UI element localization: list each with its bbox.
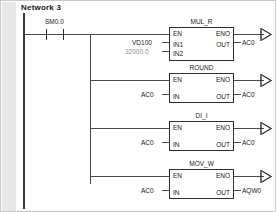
block-title-mul-r: MUL_R — [169, 18, 234, 25]
operand-in-block-3[interactable]: AC0 — [141, 139, 154, 146]
network-title: Network 3 — [21, 3, 61, 12]
pin-eno-label-3: ENO — [216, 124, 230, 131]
branch-vertical-wire — [90, 34, 91, 184]
pin-eno-label-4: ENO — [216, 172, 230, 179]
stub-in1-block-1 — [162, 42, 169, 43]
function-block-mov-w[interactable]: EN ENO IN OUT — [169, 169, 234, 199]
pin-eno-label-1: ENO — [216, 30, 230, 37]
pin-in1-label: IN1 — [173, 41, 183, 48]
operand-in2-block-1[interactable]: 32000.0 — [125, 48, 149, 55]
branch-wire-block-2 — [90, 80, 169, 81]
operand-out-block-3[interactable]: AC0 — [242, 139, 255, 146]
rung-segment-rail-to-contact — [25, 34, 46, 35]
rung-segment-contact-to-branch — [64, 34, 91, 35]
stub-in-block-3 — [162, 142, 169, 143]
branch-wire-block-1 — [90, 34, 169, 35]
left-power-rail — [23, 13, 25, 209]
pin-out-label-4: OUT — [216, 189, 230, 196]
pin-en-label-2: EN — [173, 76, 182, 83]
contact-gap-wire — [47, 34, 63, 35]
ladder-editor-canvas[interactable]: Network 3 SM0.0 EN ENO IN1 IN2 OUT MUL_R… — [0, 0, 276, 212]
function-block-mul-r[interactable]: EN ENO IN1 IN2 OUT — [169, 27, 234, 61]
editor-gutter — [2, 2, 16, 212]
branch-wire-block-4 — [90, 176, 169, 177]
pin-in2-label: IN2 — [173, 50, 183, 57]
pin-en-label-3: EN — [173, 124, 182, 131]
pin-in-label-2: IN — [173, 93, 180, 100]
function-block-di-i[interactable]: EN ENO IN OUT — [169, 121, 234, 151]
operand-out-block-2[interactable]: AC0 — [242, 91, 255, 98]
pin-en-label-1: EN — [173, 30, 182, 37]
stub-out-block-3 — [234, 142, 241, 143]
block-title-mov-w: MOV_W — [169, 160, 234, 167]
pin-eno-label-2: ENO — [216, 76, 230, 83]
stub-out-block-4 — [234, 190, 241, 191]
pin-en-label-4: EN — [173, 172, 182, 179]
operand-in-block-4[interactable]: AC0 — [141, 187, 154, 194]
branch-wire-block-3 — [90, 128, 169, 129]
power-flow-arrow-icon-1 — [259, 27, 273, 42]
operand-in-block-2[interactable]: AC0 — [141, 91, 154, 98]
operand-in1-block-1[interactable]: VD100 — [132, 39, 152, 46]
operand-out-block-1[interactable]: AC0 — [242, 39, 255, 46]
power-flow-arrow-icon-4 — [259, 169, 273, 184]
stub-in-block-2 — [162, 94, 169, 95]
pin-out-label-3: OUT — [216, 141, 230, 148]
power-flow-arrow-icon-2 — [259, 73, 273, 88]
power-flow-arrow-icon-3 — [259, 121, 273, 136]
pin-in-label-4: IN — [173, 189, 180, 196]
block-title-di-i: DI_I — [169, 112, 234, 119]
function-block-round[interactable]: EN ENO IN OUT — [169, 73, 234, 103]
operand-out-block-4[interactable]: AQW0 — [242, 187, 261, 194]
stub-in2-block-1 — [162, 51, 169, 52]
stub-in-block-4 — [162, 190, 169, 191]
pin-in-label-3: IN — [173, 141, 180, 148]
pin-out-label-1: OUT — [216, 41, 230, 48]
block-title-round: ROUND — [169, 64, 234, 71]
stub-out-block-2 — [234, 94, 241, 95]
stub-out-block-1 — [234, 42, 241, 43]
pin-out-label-2: OUT — [216, 93, 230, 100]
contact-label-sm00: SM0.0 — [45, 18, 64, 25]
